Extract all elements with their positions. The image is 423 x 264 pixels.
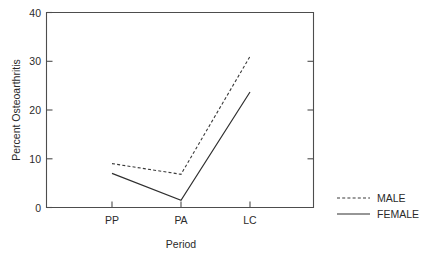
legend-label-male: MALE — [377, 192, 406, 204]
y-axis-title: Percent Osteoarthritis — [10, 59, 22, 161]
chart-screenshot: 40 30 20 10 0 PP PA LC Period Percent Os… — [0, 0, 423, 264]
series-line-female — [112, 92, 250, 200]
x-tick-label-lc: LC — [243, 214, 257, 226]
y-tick-label-10: 10 — [29, 153, 41, 165]
y-tick-label-0: 0 — [35, 202, 41, 214]
x-axis-title: Period — [166, 238, 197, 250]
series-line-male — [112, 56, 250, 174]
y-tick-label-40: 40 — [29, 7, 41, 19]
y-tick-label-20: 20 — [29, 104, 41, 116]
x-tick-label-pa: PA — [174, 214, 187, 226]
legend-label-female: FEMALE — [377, 208, 419, 220]
line-chart: 40 30 20 10 0 PP PA LC Period Percent Os… — [0, 0, 423, 264]
plot-frame — [47, 13, 314, 208]
y-tick-label-30: 30 — [29, 55, 41, 67]
x-tick-label-pp: PP — [105, 214, 119, 226]
